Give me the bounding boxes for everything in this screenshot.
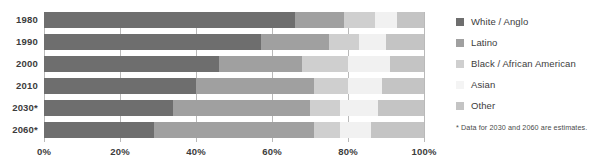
bar-segment (44, 34, 261, 50)
y-axis-label: 2010 (16, 78, 38, 94)
bar-segment (382, 78, 424, 94)
legend-swatch-icon (456, 18, 464, 26)
x-axis-tick-label: 0% (37, 146, 51, 157)
bar-row (44, 12, 424, 28)
legend-item[interactable]: Latino (456, 33, 596, 52)
plot-area (44, 12, 424, 142)
bar-segment (314, 78, 348, 94)
legend-item[interactable]: White / Anglo (456, 12, 596, 31)
x-axis-tick-label: 60% (262, 146, 282, 157)
bar-segment (340, 122, 370, 138)
legend-swatch-icon (456, 39, 464, 47)
bar-segment (261, 34, 329, 50)
bar-segment (386, 34, 424, 50)
chart-container: 19801990200020102030*2060* 0%20%40%60%80… (0, 0, 596, 166)
bar-segment (219, 56, 303, 72)
legend-item[interactable]: Other (456, 96, 596, 115)
bar-segment (44, 12, 295, 28)
legend-footnote: * Data for 2030 and 2060 are estimates. (456, 123, 596, 132)
legend-item[interactable]: Asian (456, 75, 596, 94)
legend-items: White / AngloLatinoBlack / African Ameri… (456, 12, 596, 115)
legend-item-label: Asian (471, 79, 495, 90)
bar-segment (295, 12, 344, 28)
bar-segment (173, 100, 310, 116)
x-axis-tick-label: 80% (338, 146, 358, 157)
bar-row (44, 122, 424, 138)
bar-segment (44, 122, 154, 138)
bar-segment (397, 12, 424, 28)
bar-segment (302, 56, 348, 72)
bar-segment (359, 34, 386, 50)
legend-swatch-icon (456, 81, 464, 89)
legend-item[interactable]: Black / African American (456, 54, 596, 73)
legend-item-label: White / Anglo (471, 16, 528, 27)
bar-segment (310, 100, 340, 116)
x-axis-labels: 0%20%40%60%80%100% (44, 146, 424, 160)
bar-row (44, 34, 424, 50)
legend-item-label: Other (471, 100, 495, 111)
gridline-100 (424, 12, 425, 142)
bar-segment (44, 56, 219, 72)
bar-segment (196, 78, 314, 94)
legend-item-label: Black / African American (471, 58, 576, 69)
legend-item-label: Latino (471, 37, 497, 48)
bar-row (44, 56, 424, 72)
bar-segment (340, 100, 378, 116)
bar-segment (375, 12, 398, 28)
bar-segment (378, 100, 424, 116)
bar-segment (314, 122, 341, 138)
bar-segment (44, 78, 196, 94)
x-axis-tick-label: 20% (110, 146, 130, 157)
bar-row (44, 78, 424, 94)
bar-segment (344, 12, 374, 28)
y-axis-label: 2060* (12, 122, 38, 138)
bar-segment (154, 122, 314, 138)
y-axis-label: 2030* (12, 100, 38, 116)
bar-segment (348, 56, 390, 72)
legend-swatch-icon (456, 102, 464, 110)
bar-segment (348, 78, 382, 94)
chart-legend: White / AngloLatinoBlack / African Ameri… (456, 12, 596, 132)
y-axis-label: 1990 (16, 34, 38, 50)
x-axis-tick-label: 100% (411, 146, 436, 157)
bar-rows (44, 12, 424, 142)
bar-row (44, 100, 424, 116)
bar-segment (371, 122, 424, 138)
bar-segment (390, 56, 424, 72)
bar-segment (44, 100, 173, 116)
x-axis-tick-label: 40% (186, 146, 206, 157)
y-axis-label: 2000 (16, 56, 38, 72)
y-axis-label: 1980 (16, 12, 38, 28)
bar-segment (329, 34, 359, 50)
legend-swatch-icon (456, 60, 464, 68)
y-axis-labels: 19801990200020102030*2060* (0, 12, 38, 142)
